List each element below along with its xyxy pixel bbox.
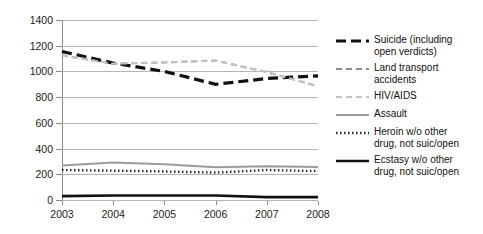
y-axis-tick-label: 1000 (30, 66, 53, 76)
series-line (62, 162, 318, 167)
y-axis-tick-label: 1400 (30, 15, 53, 25)
legend-item[interactable]: Assault (336, 108, 483, 121)
y-axis-labels: 0200400600800100012001400 (0, 0, 53, 234)
thick-black-solid-key (336, 155, 369, 167)
y-axis-tick-label: 1200 (30, 41, 53, 51)
legend-label: Land transport accidents (374, 62, 439, 85)
legend-item[interactable]: Ecstasy w/o other drug, not suic/open (336, 154, 483, 177)
black-dotted-key (336, 127, 369, 139)
gray-dash-key (336, 63, 369, 75)
y-axis-tick-label: 200 (35, 169, 53, 179)
y-axis-tick-label: 600 (35, 118, 53, 128)
legend-label: Ecstasy w/o other drug, not suic/open (374, 154, 459, 177)
y-axis-tick-label: 800 (35, 92, 53, 102)
x-axis-tick (164, 201, 165, 205)
legend-item[interactable]: HIV/AIDS (336, 90, 483, 103)
legend-label: Suicide (including open verdicts) (374, 34, 452, 57)
series-line (62, 196, 318, 198)
legend-item[interactable]: Suicide (including open verdicts) (336, 34, 483, 57)
plot-area: 0200400600800100012001400 20032004200520… (0, 0, 330, 234)
x-axis-tick-label: 2005 (144, 208, 184, 220)
series-canvas (62, 20, 318, 200)
legend-label: Heroin w/o other drug, not suic/open (374, 126, 459, 149)
y-axis-tick-label: 0 (47, 195, 53, 205)
chart-legend: Suicide (including open verdicts)Land tr… (336, 34, 483, 182)
light-gray-dash-key (336, 91, 369, 103)
legend-item[interactable]: Heroin w/o other drug, not suic/open (336, 126, 483, 149)
x-axis-tick-label: 2008 (298, 208, 338, 220)
x-axis-tick-label: 2004 (93, 208, 133, 220)
gray-solid-key (336, 109, 369, 121)
gridline (62, 200, 318, 201)
x-axis-tick-label: 2003 (42, 208, 82, 220)
series-line (62, 52, 318, 85)
legend-item[interactable]: Land transport accidents (336, 62, 483, 85)
thick-black-dash-key (336, 35, 369, 47)
series-line (62, 170, 318, 173)
legend-label: Assault (374, 108, 407, 120)
x-axis-tick (113, 201, 114, 205)
legend-label: HIV/AIDS (374, 90, 417, 102)
data-series-group (62, 20, 318, 200)
x-axis-tick (267, 201, 268, 205)
x-axis-tick-label: 2007 (247, 208, 287, 220)
x-axis-tick-label: 2006 (196, 208, 236, 220)
x-axis-tick (318, 201, 319, 205)
y-axis-tick-label: 400 (35, 144, 53, 154)
x-axis-tick (216, 201, 217, 205)
chart-container: 0200400600800100012001400 20032004200520… (0, 0, 483, 234)
x-axis-tick (62, 201, 63, 205)
